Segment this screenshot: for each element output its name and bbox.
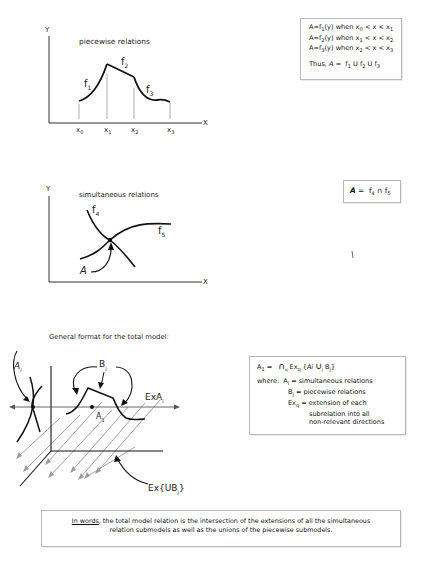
total-model-definition-box: A1 = ∩q Exq {Ai ∪j Bj} where: Ai = simul… [249, 356, 406, 435]
label-exai: ExAi [145, 393, 164, 404]
label-bj: Bj [99, 360, 107, 371]
total-model-formula: A1 = ∩q Exq {Ai ∪j Bj} [257, 362, 405, 375]
definition-ai: where: Ai = simultaneous relations [257, 377, 405, 388]
total-model-graph [0, 0, 427, 578]
definition-exq-cont-1: subrelation into all [257, 410, 405, 419]
label-a1: A1 [96, 413, 105, 423]
summary-line-1: In words, the total model relation is th… [42, 517, 400, 526]
label-ex-union-bj: Ex{UBj} [148, 484, 185, 495]
definition-bj: Bj = piecewise relations [257, 388, 405, 399]
summary-box: In words, the total model relation is th… [41, 510, 401, 547]
summary-lead: In words [72, 517, 99, 525]
label-ai: Ai [14, 362, 22, 373]
definition-exq-cont-2: non-relevant directions [257, 418, 405, 427]
summary-line-2: relation submodels as well as the unions… [42, 526, 400, 535]
definition-exq: Exq = extension of each [257, 399, 405, 410]
